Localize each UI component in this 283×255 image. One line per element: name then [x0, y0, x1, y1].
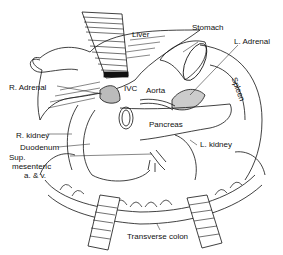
- label-duodenum: Duodenum: [20, 143, 59, 152]
- label-sup-mesenteric-line3: a. & v.: [24, 171, 51, 180]
- label-sup-mesenteric-line2: mesenteric: [12, 162, 51, 171]
- label-ivc: IVC: [124, 84, 137, 93]
- label-liver: Liver: [132, 30, 149, 39]
- duodenum-outline: [83, 110, 150, 181]
- r-adrenal: [100, 86, 120, 104]
- label-sup-mesenteric-line1: Sup.: [9, 153, 51, 162]
- label-pancreas: Pancreas: [149, 120, 183, 129]
- label-transverse-colon: Transverse colon: [127, 232, 188, 241]
- label-l-kidney: L. kidney: [200, 140, 232, 149]
- label-r-kidney: R. kidney: [16, 131, 49, 140]
- label-stomach: Stomach: [192, 23, 224, 32]
- right-lower-retractor: [187, 195, 222, 248]
- label-sup-mesenteric: Sup. mesenteric a. & v.: [9, 153, 51, 180]
- label-r-adrenal: R. Adrenal: [9, 83, 46, 92]
- aorta: [140, 99, 175, 106]
- upper-retractor: [82, 12, 128, 78]
- l-kidney-outline: [175, 135, 196, 180]
- sup-mesenteric-vessels: [148, 150, 166, 172]
- left-lower-retractor: [88, 195, 120, 250]
- label-l-adrenal: L. Adrenal: [234, 37, 270, 46]
- label-aorta: Aorta: [146, 86, 165, 95]
- transverse-colon: [40, 152, 265, 224]
